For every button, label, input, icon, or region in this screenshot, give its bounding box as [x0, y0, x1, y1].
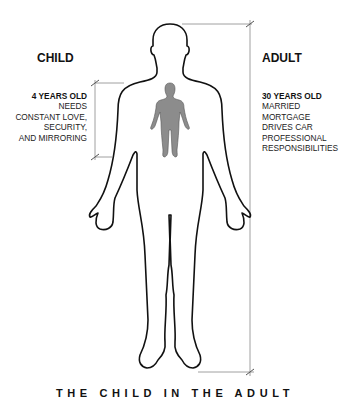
- child-description: 4 YEARS OLD NEEDS CONSTANT LOVE, SECURIT…: [15, 91, 87, 143]
- child-need-line: SECURITY,: [15, 122, 87, 132]
- adult-trait-line: DRIVES CAR: [262, 122, 338, 132]
- adult-heading: ADULT: [262, 51, 302, 65]
- adult-trait-line: MARRIED: [262, 101, 338, 111]
- adult-trait-line: MORTGAGE: [262, 112, 338, 122]
- child-body-silhouette-icon: [151, 83, 190, 157]
- child-heading: CHILD: [37, 51, 74, 65]
- child-need-line: CONSTANT LOVE,: [15, 112, 87, 122]
- adult-age: 30 YEARS OLD: [262, 91, 338, 101]
- child-age: 4 YEARS OLD: [15, 91, 87, 101]
- child-need-line: AND MIRRORING: [15, 133, 87, 143]
- adult-trait-line: PROFESSIONAL: [262, 133, 338, 143]
- child-need-line: NEEDS: [15, 101, 87, 111]
- adult-trait-line: RESPONSIBILITIES: [262, 143, 338, 153]
- adult-body-outline-icon: [89, 24, 250, 368]
- diagram-title: THE CHILD IN THE ADULT: [0, 387, 350, 399]
- child-height-measure: [91, 80, 124, 160]
- adult-description: 30 YEARS OLD MARRIED MORTGAGE DRIVES CAR…: [262, 91, 338, 153]
